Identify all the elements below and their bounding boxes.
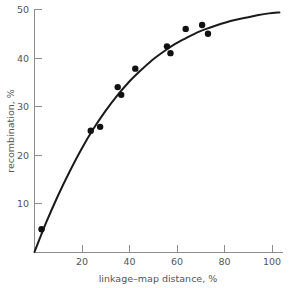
data-point bbox=[199, 22, 205, 28]
data-point bbox=[164, 43, 170, 49]
fitted-curve bbox=[35, 12, 280, 252]
x-tick-label-20: 20 bbox=[76, 256, 88, 267]
data-point bbox=[183, 26, 189, 32]
data-point bbox=[167, 50, 173, 56]
y-axis-tick-labels: 50 40 30 20 10 bbox=[17, 4, 29, 209]
y-tick-label-50: 50 bbox=[17, 4, 29, 15]
x-tick-label-40: 40 bbox=[123, 256, 135, 267]
data-point bbox=[38, 226, 44, 232]
y-tick-label-40: 40 bbox=[17, 53, 29, 64]
data-point bbox=[118, 92, 124, 98]
axes bbox=[35, 9, 284, 252]
x-tick-label-80: 80 bbox=[218, 256, 230, 267]
data-point bbox=[132, 65, 138, 71]
data-point bbox=[205, 31, 211, 37]
data-point bbox=[115, 84, 121, 90]
y-axis-title: recombination, % bbox=[5, 89, 16, 173]
x-axis-ticks bbox=[82, 245, 272, 252]
x-axis-title: linkage–map distance, % bbox=[99, 273, 218, 284]
y-axis-ticks bbox=[35, 10, 42, 204]
x-axis-tick-labels: 20 40 60 80 100 bbox=[76, 256, 281, 267]
y-tick-label-30: 30 bbox=[17, 101, 29, 112]
recombination-vs-linkage-map-distance-chart: 50 40 30 20 10 20 40 60 80 100 linkage–m… bbox=[0, 0, 289, 288]
x-tick-label-100: 100 bbox=[263, 256, 281, 267]
data-point bbox=[97, 124, 103, 130]
data-points-layer bbox=[38, 22, 211, 233]
y-tick-label-10: 10 bbox=[17, 198, 29, 209]
y-tick-label-20: 20 bbox=[17, 150, 29, 161]
x-tick-label-60: 60 bbox=[171, 256, 183, 267]
chart-figure: 50 40 30 20 10 20 40 60 80 100 linkage–m… bbox=[0, 0, 289, 288]
data-point bbox=[88, 128, 94, 134]
